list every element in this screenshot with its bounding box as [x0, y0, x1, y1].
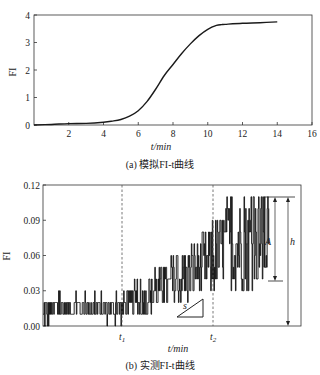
x-tick-label: 16	[307, 129, 317, 139]
slope-label: s	[183, 300, 187, 311]
chart-a: 01234 246810121416 FI t/min (a) 模拟FI-t曲线	[7, 11, 317, 172]
measured-fi-trace	[43, 197, 269, 326]
chart-b-caption: (b) 实测FI-t曲线	[125, 359, 194, 372]
t1-tick-label: t1	[119, 332, 125, 344]
y-tick-label: 3	[25, 38, 30, 48]
x-tick-label: 2	[66, 129, 71, 139]
chart-a-x-axis: 246810121416	[66, 122, 317, 139]
height-arrowhead-bottom	[286, 321, 290, 326]
amplitude-arrowhead-top	[273, 197, 277, 202]
chart-b-ylabel: FI	[1, 252, 12, 261]
x-tick-label: 8	[171, 129, 176, 139]
x-tick-label: 10	[203, 129, 213, 139]
height-label: h	[290, 236, 295, 247]
y-tick-label: 0.00	[23, 322, 40, 332]
y-tick-label: 0.06	[23, 251, 40, 261]
x-tick-label: 14	[273, 129, 283, 139]
height-arrowhead-top	[286, 197, 290, 202]
chart-a-caption: (a) 模拟FI-t曲线	[126, 158, 195, 171]
figure: 01234 246810121416 FI t/min (a) 模拟FI-t曲线…	[0, 0, 320, 375]
x-tick-label: 6	[136, 129, 141, 139]
y-tick-label: 4	[25, 11, 30, 21]
y-tick-label: 0.03	[23, 286, 40, 296]
y-tick-label: 1	[25, 93, 30, 103]
chart-a-curve	[34, 22, 277, 125]
chart-b-xlabel: t/min	[168, 343, 189, 354]
chart-a-y-axis: 01234	[25, 11, 37, 131]
chart-b: 0.000.030.060.090.12 s A h t1 t2 FI t/mi…	[1, 181, 301, 373]
chart-a-ylabel: FI	[7, 68, 18, 77]
y-tick-label: 0	[25, 121, 30, 131]
y-tick-label: 0.09	[23, 216, 40, 226]
amplitude-label: A	[264, 236, 272, 247]
amplitude-arrowhead-bottom	[273, 276, 277, 281]
chart-a-xlabel: t/min	[151, 141, 172, 152]
y-tick-label: 2	[25, 66, 30, 76]
x-tick-label: 12	[238, 129, 248, 139]
y-tick-label: 0.12	[23, 181, 40, 191]
chart-b-signal	[43, 197, 269, 326]
chart-a-frame	[34, 15, 312, 125]
x-tick-label: 4	[101, 129, 106, 139]
t2-tick-label: t2	[210, 332, 217, 344]
